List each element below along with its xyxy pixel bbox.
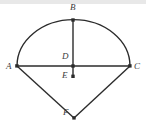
vertex-label-f: F xyxy=(63,108,69,117)
vertex-label-a: A xyxy=(6,62,12,71)
geometry-drawing xyxy=(0,0,146,123)
geometry-figure: A B C D E F xyxy=(0,0,146,123)
vertex-label-c: C xyxy=(134,62,140,71)
vertex-label-e: E xyxy=(62,71,68,80)
vertex-dot-d xyxy=(71,64,74,67)
vertex-dot-a xyxy=(15,64,18,67)
vertex-dot-b xyxy=(71,18,74,21)
vertex-dot-f xyxy=(72,116,75,119)
vertex-label-b: B xyxy=(70,3,76,12)
segment-cf xyxy=(74,66,130,118)
vertex-dot-c xyxy=(128,64,131,67)
vertex-label-d: D xyxy=(62,52,69,61)
vertex-dot-e xyxy=(71,75,74,78)
